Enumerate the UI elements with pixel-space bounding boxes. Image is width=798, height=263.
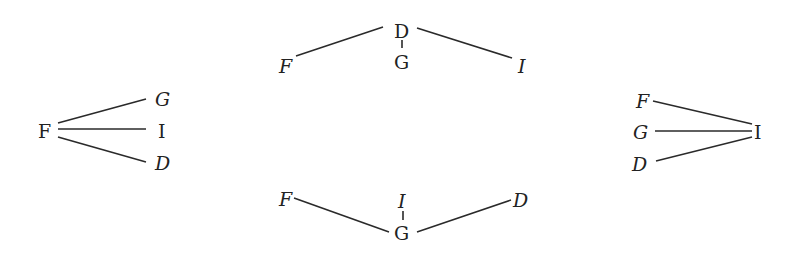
node-left-child-3: D [154,152,170,174]
node-right-child-1: F [635,90,650,112]
edge-top-d-f [296,27,383,56]
node-right-root: I [754,121,762,143]
node-top-child-2: G [394,51,409,73]
tree-left: F G I D [38,88,170,174]
node-bottom-root: G [394,222,409,244]
diagram-canvas: F G I D D F G I F I D G F G D I [0,0,798,263]
edge-right-d-i [656,137,752,161]
edge-bottom-g-d [417,200,511,232]
node-left-root: F [38,120,51,142]
node-bottom-child-1: F [278,188,293,210]
edge-top-d-i [417,28,512,58]
edge-left-f-d [58,137,146,162]
tree-top: D F G I [278,20,526,77]
node-top-child-3: I [517,55,526,77]
tree-right: F G D I [631,90,762,175]
node-left-child-1: G [155,88,170,110]
node-top-root: D [394,20,409,42]
node-left-child-2: I [158,120,166,142]
edge-left-f-g [58,99,146,123]
tree-bottom: F I D G [278,188,528,244]
edge-right-f-i [653,101,752,124]
edge-bottom-g-f [294,198,389,232]
node-right-child-3: D [631,153,647,175]
node-bottom-child-2: I [397,190,406,212]
node-top-child-1: F [278,55,293,77]
node-bottom-child-3: D [512,189,528,211]
node-right-child-2: G [633,121,648,143]
